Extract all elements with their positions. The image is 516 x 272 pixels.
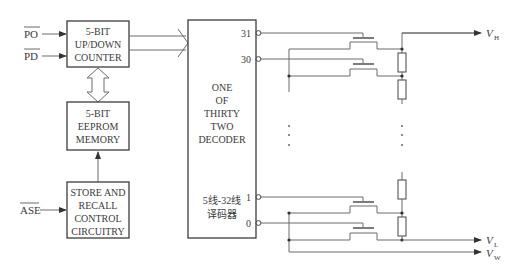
ase-label: ASE — [20, 204, 41, 216]
output-1-label: 1 — [246, 192, 251, 203]
decoder-cn-line-1: 5线-32线 — [203, 194, 241, 206]
bubble-0 — [256, 221, 261, 226]
vh-terminal-label: V H — [486, 27, 499, 42]
resistor-bottom-2 — [398, 217, 406, 236]
svg-text:W: W — [494, 254, 501, 262]
bubble-1 — [256, 195, 261, 200]
gate-wires — [261, 33, 363, 227]
counter-eeprom-bidirectional-bus — [87, 68, 109, 102]
wiper-bus — [287, 49, 290, 252]
eeprom-line-1: 5-BIT — [86, 108, 110, 119]
resistor-top-1 — [398, 53, 406, 72]
store-line-4: CIRCUITRY — [71, 226, 124, 237]
resistor-bottom-1 — [398, 180, 406, 199]
eeprom-line-2: EEPROM — [78, 121, 119, 132]
bubble-31 — [256, 31, 261, 36]
eeprom-block: 5-BIT EEPROM MEMORY — [67, 102, 129, 150]
decoder-line-3: THIRTY — [204, 108, 240, 119]
transistor-1 — [289, 202, 402, 213]
store-line-3: CONTROL — [74, 213, 121, 224]
input-ase: ASE — [20, 203, 66, 216]
counter-line-3: COUNTER — [74, 52, 122, 63]
ellipsis-dots — [288, 125, 403, 146]
decoder-line-4: TWO — [211, 121, 234, 132]
decoder-block: ONE OF THIRTY TWO DECODER 5线-32线 译码器 31 … — [188, 20, 261, 238]
po-label: PO — [24, 28, 38, 40]
store-line-1: STORE AND — [70, 187, 125, 198]
input-pd: PD — [24, 49, 66, 62]
counter-line-2: UP/DOWN — [75, 39, 122, 50]
svg-text:H: H — [494, 34, 499, 42]
digital-potentiometer-diagram: PO PD ASE 5-BIT UP/DOWN COUNTER 5-BIT EE… — [0, 0, 516, 272]
output-30-label: 30 — [241, 54, 251, 65]
svg-text:V: V — [486, 27, 494, 39]
store-recall-block: STORE AND RECALL CONTROL CIRCUITRY — [67, 182, 129, 238]
decoder-line-5: DECODER — [198, 134, 246, 145]
vw-terminal-label: V W — [486, 247, 501, 262]
resistor-top-2 — [398, 80, 406, 99]
store-line-2: RECALL — [79, 200, 118, 211]
resistor-ladder — [398, 33, 480, 242]
input-po: PO — [24, 27, 66, 40]
output-31-label: 31 — [241, 28, 251, 39]
eeprom-line-3: MEMORY — [76, 134, 120, 145]
bubble-30 — [256, 57, 261, 62]
pd-label: PD — [24, 50, 38, 62]
decoder-line-1: ONE — [212, 82, 233, 93]
decoder-cn-line-2: 译码器 — [207, 209, 237, 220]
svg-text:L: L — [494, 241, 498, 249]
counter-to-decoder-bus — [129, 29, 188, 57]
svg-text:V: V — [486, 234, 494, 246]
counter-line-1: 5-BIT — [86, 26, 110, 37]
svg-text:V: V — [486, 247, 494, 259]
output-0-label: 0 — [246, 218, 251, 229]
transistor-31 — [289, 38, 402, 49]
transistor-30 — [289, 64, 402, 76]
decoder-line-2: OF — [216, 95, 229, 106]
transistor-0 — [289, 228, 402, 240]
counter-block: 5-BIT UP/DOWN COUNTER — [67, 21, 129, 67]
